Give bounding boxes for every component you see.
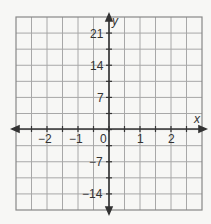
y-axis-down-arrow-icon: [106, 207, 112, 214]
coordinate-grid: [0, 0, 211, 224]
y-tick-label: 21: [90, 28, 103, 40]
x-axis-right-arrow-icon: [199, 126, 206, 132]
y-axis-label: y: [112, 15, 118, 27]
y-tick-label: 14: [90, 60, 103, 72]
x-axis-label: x: [194, 113, 200, 125]
y-tick-label: 7: [97, 92, 104, 104]
x-axis-left-arrow-icon: [12, 126, 19, 132]
x-tick-label: 1: [137, 133, 144, 145]
y-tick-label: −14: [82, 188, 102, 200]
x-tick-label: −1: [69, 133, 83, 145]
x-tick-label: 2: [168, 133, 175, 145]
x-tick-label: 0: [100, 133, 107, 145]
y-tick-label: −7: [89, 156, 103, 168]
x-tick-label: −2: [38, 133, 52, 145]
